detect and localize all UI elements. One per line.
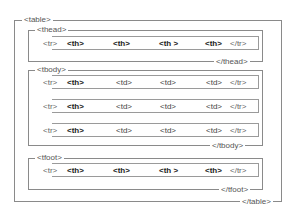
table-open-label: <table> xyxy=(22,15,53,24)
thead-open-label: <thead> xyxy=(35,25,68,34)
tfoot-cell: <th> xyxy=(205,166,222,175)
thead-cell: <th> xyxy=(67,39,84,48)
tbody-cell: <th> xyxy=(67,102,84,111)
tbody-cell: <th> xyxy=(67,78,84,87)
tbody-cell: <th> xyxy=(67,126,84,135)
tbody-cell: <td> xyxy=(160,78,176,87)
tbody-cell: <td> xyxy=(116,102,132,111)
thead-cell: <th> xyxy=(205,39,222,48)
tbody-cell: <td> xyxy=(116,78,132,87)
tfoot-close-label: </tfoot> xyxy=(219,185,250,194)
thead-row-open: <tr> xyxy=(43,39,57,48)
tbody-row-close: </tr> xyxy=(229,126,247,135)
tbody-cell: <td> xyxy=(116,126,132,135)
tbody-row-open: <tr> xyxy=(43,102,57,111)
thead-cell: <th> xyxy=(113,39,130,48)
thead-close-label: </thead> xyxy=(214,57,250,66)
tbody-cell: <td> xyxy=(206,78,222,87)
tbody-cell: <td> xyxy=(206,102,222,111)
thead-cell: <th > xyxy=(159,39,178,48)
tbody-row-open: <tr> xyxy=(43,126,57,135)
tfoot-cell: <th> xyxy=(67,166,84,175)
tfoot-cell: <th> xyxy=(113,166,130,175)
tbody-row-close: </tr> xyxy=(229,78,247,87)
tfoot-cell: <th > xyxy=(159,166,178,175)
tbody-cell: <td> xyxy=(206,126,222,135)
tbody-row-close: </tr> xyxy=(229,102,247,111)
thead-row-close: </tr> xyxy=(229,39,247,48)
tfoot-row-open: <tr> xyxy=(43,166,57,175)
tbody-cell: <td> xyxy=(160,126,176,135)
tbody-cell: <td> xyxy=(160,102,176,111)
tfoot-row-close: </tr> xyxy=(229,166,247,175)
tbody-row-open: <tr> xyxy=(43,78,57,87)
table-close-label: </table> xyxy=(240,197,273,206)
tfoot-open-label: <tfoot> xyxy=(35,153,64,162)
tbody-close-label: </tbody> xyxy=(210,141,245,150)
tbody-open-label: <tbody> xyxy=(35,65,68,74)
